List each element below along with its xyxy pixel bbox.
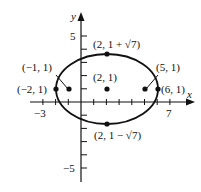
point-bottom-vertex	[104, 121, 109, 126]
point-top-vertex	[104, 51, 109, 56]
label-bottom-vertex: (2, 1 − √7)	[94, 129, 141, 142]
point-left-vertex	[53, 86, 58, 91]
x-tick-label-neg3: −3	[34, 107, 46, 119]
x-tick-label-7: 7	[166, 107, 172, 119]
label-top-vertex: (2, 1 + √7)	[93, 38, 140, 51]
data-points	[53, 51, 160, 126]
label-left-vertex: (−2, 1)	[17, 83, 47, 96]
y-tick-label-5: 5	[70, 30, 76, 42]
ellipse-graph: x y −3 7 5 −5 (2, 1 + √7) (2, 1 − √7) (2…	[0, 0, 201, 192]
label-right-focus: (5, 1)	[156, 61, 180, 74]
point-right-vertex	[155, 86, 160, 91]
label-left-focus: (−1, 1)	[22, 61, 52, 74]
x-axis-label: x	[186, 88, 192, 100]
y-axis-label: y	[70, 10, 76, 22]
y-tick-label-neg5: −5	[63, 162, 75, 174]
point-right-focus	[142, 86, 147, 91]
label-center: (2, 1)	[93, 71, 117, 84]
point-center	[104, 86, 109, 91]
label-right-vertex: (6, 1)	[161, 83, 185, 96]
y-axis-arrow-icon	[78, 12, 85, 21]
point-left-focus	[66, 86, 71, 91]
